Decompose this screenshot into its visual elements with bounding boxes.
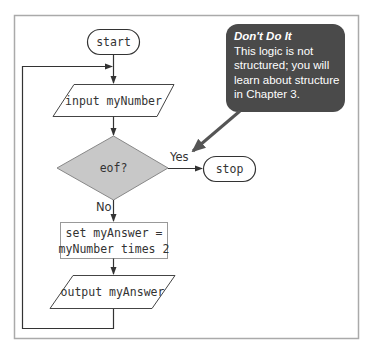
- callout-title: Don't Do It: [234, 29, 342, 44]
- decision-label: eof?: [100, 161, 128, 175]
- callout-text: Don't Do It This logic is not structured…: [234, 29, 342, 102]
- no-label: No: [96, 200, 112, 214]
- output-label: output myAnswer: [61, 285, 165, 299]
- process-line-1: set myAnswer =: [66, 226, 163, 240]
- start-label: start: [96, 35, 131, 49]
- stop-label: stop: [216, 162, 244, 176]
- callout-pointer-arrow: [193, 111, 240, 151]
- process-line-2: myNumber times 2: [59, 242, 170, 256]
- input-label: input myNumber: [65, 94, 162, 108]
- yes-label: Yes: [169, 150, 189, 164]
- callout-body: This logic is not structured; you will l…: [234, 45, 339, 101]
